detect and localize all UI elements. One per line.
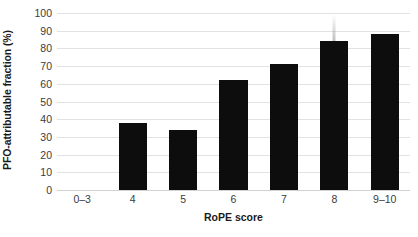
x-tick-label: 5 <box>158 193 208 205</box>
x-axis-title-text: RoPE score <box>204 211 263 223</box>
bar[interactable] <box>320 41 348 190</box>
bar-slot <box>309 13 359 190</box>
y-tick-label: 50 <box>40 96 52 108</box>
x-tick-label: 8 <box>309 193 359 205</box>
bar-slot <box>208 13 258 190</box>
bars-layer <box>57 13 410 190</box>
bar[interactable] <box>169 130 197 190</box>
y-tick-label: 70 <box>40 60 52 72</box>
bar-slot <box>107 13 157 190</box>
y-tick-label: 60 <box>40 78 52 90</box>
bar[interactable] <box>119 123 147 190</box>
x-tick-label: 6 <box>208 193 258 205</box>
y-tick-label: 10 <box>40 166 52 178</box>
bar-slot <box>259 13 309 190</box>
x-tick-label: 4 <box>107 193 157 205</box>
bar[interactable] <box>270 64 298 190</box>
x-axis-tick-labels: 0–3456789–10 <box>57 193 410 205</box>
bar[interactable] <box>371 34 399 190</box>
y-axis-title: PFO-attributable fraction (%) <box>0 0 14 200</box>
x-tick-label: 9–10 <box>360 193 410 205</box>
y-axis-tick-labels: 1009080706050403020100 <box>16 13 56 190</box>
y-axis-title-text: PFO-attributable fraction (%) <box>1 30 13 170</box>
y-tick-label: 0 <box>46 184 52 196</box>
plot-area <box>57 13 410 190</box>
x-axis-title: RoPE score <box>57 211 410 223</box>
y-tick-label: 40 <box>40 113 52 125</box>
bar-slot <box>158 13 208 190</box>
bar-slot <box>57 13 107 190</box>
x-tick-label: 7 <box>259 193 309 205</box>
y-tick-label: 20 <box>40 149 52 161</box>
y-tick-label: 30 <box>40 131 52 143</box>
x-tick-label: 0–3 <box>57 193 107 205</box>
bar[interactable] <box>219 80 247 190</box>
bar-chart: PFO-attributable fraction (%) 1009080706… <box>0 0 418 237</box>
y-tick-label: 80 <box>40 42 52 54</box>
bar-slot <box>360 13 410 190</box>
y-tick-label: 90 <box>40 25 52 37</box>
y-tick-label: 100 <box>34 7 52 19</box>
axis-baseline <box>57 190 410 191</box>
scan-artifact <box>333 15 336 41</box>
